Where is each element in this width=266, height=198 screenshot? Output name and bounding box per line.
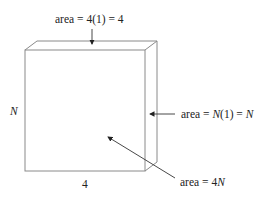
side-label-prefix: area =	[181, 108, 212, 120]
top-face	[25, 41, 157, 50]
front-arrow-icon	[108, 137, 175, 178]
front-face-area-label: area = 4N	[180, 176, 226, 188]
top-face-area-label: area = 4(1) = 4	[55, 13, 124, 26]
width-label: 4	[82, 178, 88, 190]
box-diagram: area = 4(1) = 4 area = N(1) = N area = 4…	[0, 0, 266, 198]
box-shape	[25, 41, 157, 171]
side-label-var2: N	[245, 108, 255, 120]
front-label-var: N	[216, 176, 226, 188]
side-face	[145, 41, 157, 171]
height-label: N	[9, 105, 19, 117]
side-label-mid: (1) =	[220, 108, 246, 121]
side-face-area-label: area = N(1) = N	[181, 108, 255, 121]
front-face	[25, 50, 145, 171]
front-label-prefix: area = 4	[180, 176, 217, 188]
